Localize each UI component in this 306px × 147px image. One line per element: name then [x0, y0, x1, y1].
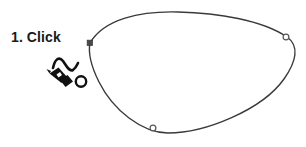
close-path-circle-icon [76, 76, 86, 86]
anchor-point-selected[interactable] [87, 40, 92, 45]
anchor-point-bottom[interactable] [150, 125, 156, 131]
pen-squiggle-icon [53, 59, 78, 71]
anchor-point-right[interactable] [283, 34, 289, 40]
illustration-canvas: 1. Click [0, 0, 306, 147]
step-label: 1. Click [11, 29, 61, 45]
closed-path-outline [89, 12, 295, 133]
pen-path-figure [0, 0, 306, 147]
pen-nib-tip [47, 69, 52, 74]
